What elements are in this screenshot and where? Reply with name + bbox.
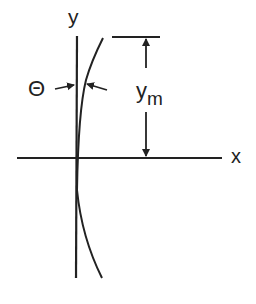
y-axis-label: y xyxy=(68,6,79,27)
diagram-svg xyxy=(0,0,256,304)
ym-label-subscript: m xyxy=(147,88,163,109)
diagram-canvas: y x Θ ym xyxy=(0,0,256,304)
theta-arrow-left xyxy=(55,85,74,89)
ym-label-base: y xyxy=(136,78,147,103)
theta-label: Θ xyxy=(28,78,45,100)
theta-arrow-right xyxy=(87,84,107,90)
curve-upper xyxy=(77,38,103,190)
ym-label: ym xyxy=(136,80,163,108)
curve-lower xyxy=(77,190,102,278)
x-axis-label: x xyxy=(231,146,241,166)
